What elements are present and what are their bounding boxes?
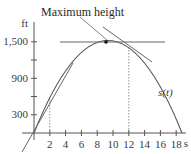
y-tick-label-900: 900 bbox=[12, 72, 29, 84]
x-tick-label-16: 16 bbox=[155, 138, 167, 150]
x-tick-label-4: 4 bbox=[63, 138, 69, 150]
x-tick-label-10: 10 bbox=[108, 138, 120, 150]
x-tick-label-18: 18 bbox=[171, 138, 183, 150]
x-tick-label-14: 14 bbox=[139, 138, 151, 150]
height-chart: 300 900 1,500 ft 2 4 6 8 10 12 14 16 18 … bbox=[0, 0, 191, 154]
y-tick-label-300: 300 bbox=[12, 108, 29, 120]
x-tick-label-8: 8 bbox=[94, 138, 100, 150]
tangent-at-t12 bbox=[103, 27, 152, 62]
y-axis-label: ft bbox=[21, 17, 28, 29]
chart-title: Maximum height bbox=[41, 5, 125, 19]
max-height-point bbox=[104, 40, 108, 44]
x-tick-label-2: 2 bbox=[47, 138, 53, 150]
curve-label: s(t) bbox=[158, 86, 173, 99]
x-tick-label-6: 6 bbox=[79, 138, 85, 150]
y-tick-label-1500: 1,500 bbox=[3, 35, 28, 47]
x-tick-label-12: 12 bbox=[123, 138, 134, 150]
x-axis-label: s bbox=[184, 137, 188, 149]
max-height-leader bbox=[80, 17, 107, 40]
